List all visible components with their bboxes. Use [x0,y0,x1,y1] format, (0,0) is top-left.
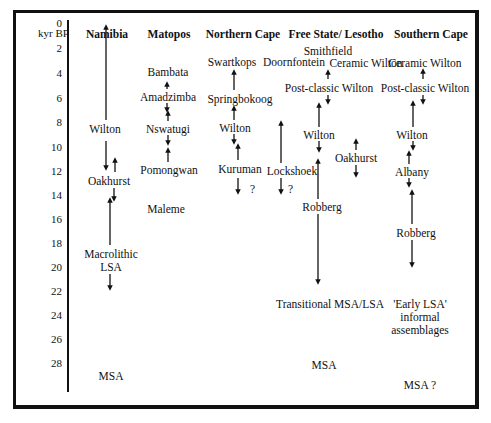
duration-arrows [0,0,491,423]
